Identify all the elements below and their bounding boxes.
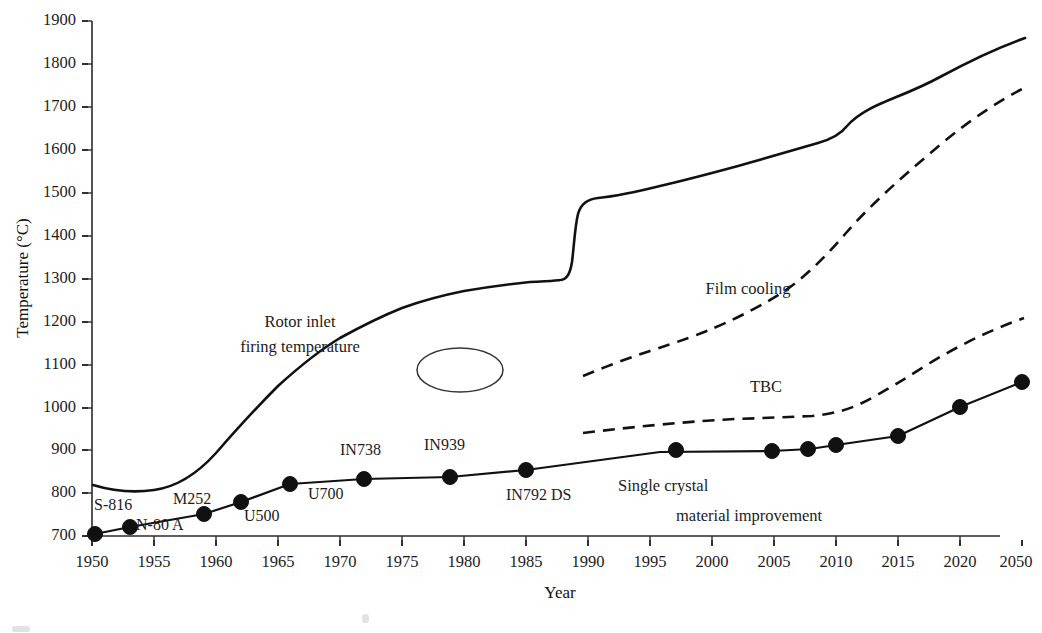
x-axis: 1950 1955 1960 1965 1970 1975 1980 1985 …: [76, 536, 1033, 602]
x-tick-label: 1960: [200, 552, 233, 571]
y-tick-label: 900: [51, 439, 76, 458]
x-tick-label: 2020: [944, 552, 977, 571]
data-point: [1015, 375, 1030, 390]
data-point: [283, 477, 298, 492]
x-axis-title: Year: [544, 583, 576, 602]
y-tick-label: 1300: [43, 268, 76, 287]
x-tick-label: 2015: [882, 552, 915, 571]
scan-artifact: [362, 614, 369, 623]
chart-container: 1900 1800 1700 1600 1500 1400 1300 1200 …: [0, 0, 1042, 633]
y-tick-label: 800: [51, 482, 76, 501]
x-tick-label: 1975: [386, 552, 419, 571]
data-point: [891, 429, 906, 444]
y-axis-title: Temperature (°C): [13, 218, 32, 337]
x-tick-label: 1990: [572, 552, 605, 571]
material-label-in939: IN939: [424, 436, 465, 453]
material-label-in792ds: IN792 DS: [506, 486, 571, 503]
y-tick-label: 1800: [43, 53, 76, 72]
material-label-s816: S-816: [94, 496, 132, 513]
chart-svg: 1900 1800 1700 1600 1500 1400 1300 1200 …: [0, 0, 1042, 633]
annotation-rotor-inlet-line1: Rotor inlet: [264, 312, 335, 331]
data-point: [953, 400, 968, 415]
y-tick-label: 1900: [43, 10, 76, 29]
x-tick-label: 2010: [820, 552, 853, 571]
scan-artifact-edge: [12, 626, 30, 632]
annotation-rotor-inlet-line2: firing temperature: [240, 337, 360, 356]
x-tick-label: 1995: [634, 552, 667, 571]
x-tick-label: 2050: [1000, 552, 1033, 571]
x-tick-label: 1965: [262, 552, 295, 571]
annotation-single-crystal-line1: Single crystal: [618, 476, 709, 495]
annotation-tbc: TBC: [750, 377, 782, 396]
data-point: [829, 438, 844, 453]
annotation-film-cooling: Film cooling: [706, 279, 791, 298]
x-tick-label: 1955: [138, 552, 171, 571]
material-label-u500: U500: [244, 507, 280, 524]
material-label-in738: IN738: [340, 441, 381, 458]
y-tick-label: 1400: [43, 225, 76, 244]
y-axis: 1900 1800 1700 1600 1500 1400 1300 1200 …: [13, 10, 92, 544]
data-point: [669, 443, 684, 458]
x-tick-labels: 1950 1955 1960 1965 1970 1975 1980 1985 …: [76, 552, 1033, 571]
annotation-single-crystal-line2: material improvement: [676, 506, 823, 525]
x-tick-label: 1980: [448, 552, 481, 571]
data-point: [357, 472, 372, 487]
data-point: [765, 444, 780, 459]
y-tick-label: 1700: [43, 96, 76, 115]
y-tick-label: 1200: [43, 311, 76, 330]
data-point: [443, 470, 458, 485]
material-label-n80a: N-80 A: [136, 516, 184, 533]
y-tick-labels: 1900 1800 1700 1600 1500 1400 1300 1200 …: [43, 10, 76, 544]
x-tick-label: 2000: [696, 552, 729, 571]
material-label-u700: U700: [308, 485, 344, 502]
x-tick-label: 1970: [324, 552, 357, 571]
y-tick-label: 1100: [44, 354, 76, 373]
x-tick-label: 1985: [510, 552, 543, 571]
y-tick-label: 1500: [43, 182, 76, 201]
data-point: [88, 527, 103, 542]
y-tick-label: 1600: [43, 139, 76, 158]
y-tick-label: 1000: [43, 397, 76, 416]
data-point: [519, 463, 534, 478]
y-tick-label: 700: [51, 525, 76, 544]
x-tick-label: 2005: [758, 552, 791, 571]
data-point: [801, 442, 816, 457]
material-label-m252: M252: [173, 490, 211, 507]
x-tick-label: 1950: [76, 552, 109, 571]
data-point: [197, 507, 212, 522]
